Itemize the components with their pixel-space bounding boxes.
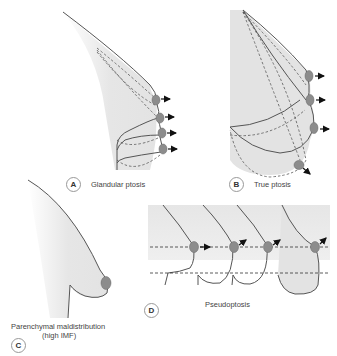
- nipple-d3: [264, 242, 273, 253]
- panel-d-letter-badge: D: [144, 303, 159, 318]
- nipple-d4: [311, 242, 320, 253]
- panel-c-letter-badge: C: [11, 338, 26, 353]
- panel-c-caption-line2: (high IMF): [42, 331, 76, 340]
- panel-a-glandular-ptosis: [63, 12, 177, 170]
- panel-d-caption: Pseudoptosis: [205, 300, 250, 309]
- nipple-b1: [305, 71, 313, 82]
- panel-a-letter-badge: A: [66, 177, 81, 192]
- nipple-a1: [152, 95, 160, 105]
- panel-a-caption: Glandular ptosis: [91, 180, 145, 189]
- nipple-a2: [156, 113, 164, 123]
- nipple-d1: [190, 242, 199, 253]
- nipple-a4: [159, 144, 167, 154]
- nipple-b2: [306, 95, 314, 106]
- panel-b-caption: True ptosis: [254, 180, 291, 189]
- panel-b-true-ptosis: [230, 10, 329, 177]
- arrow-icon: [303, 168, 310, 174]
- nipple-b3: [310, 123, 318, 134]
- nipple-b4: [294, 161, 304, 170]
- nipple-d2: [230, 242, 239, 253]
- ptosis-diagram: [0, 0, 337, 356]
- nipple-a3: [158, 128, 166, 138]
- panel-c-parenchymal-maldistribution: [28, 180, 111, 318]
- panel-c-caption-line1: Parenchymal maldistribution: [11, 322, 105, 331]
- panel-d-pseudoptosis: [148, 205, 330, 294]
- nipple-c: [101, 277, 111, 290]
- panel-b-letter-badge: B: [229, 177, 244, 192]
